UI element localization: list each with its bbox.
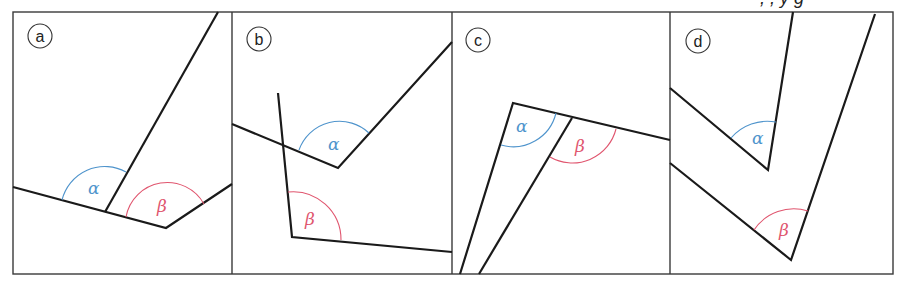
panel-c: c α β [460, 28, 670, 274]
beta-label: β [156, 196, 167, 216]
transversal-line [479, 118, 572, 274]
panel-label-b: b [255, 31, 264, 48]
alpha-label: α [516, 116, 528, 136]
panel-label-c: c [474, 32, 482, 49]
alpha-label: α [328, 134, 340, 154]
bent-line [232, 42, 452, 168]
alpha-label: α [88, 178, 100, 198]
beta-label: β [574, 136, 585, 156]
bent-line [13, 184, 232, 228]
panel-d: d α β [670, 12, 875, 260]
transversal-line [105, 12, 218, 212]
panel-a: a α β [13, 12, 232, 228]
beta-label: β [778, 220, 789, 240]
beta-label: β [304, 209, 315, 229]
panel-label-d: d [694, 33, 703, 50]
panel-b: b α β [232, 27, 452, 252]
cropped-caption-text: , , y g [760, 0, 804, 8]
angle-diagram: , , y g a α β b α β c α β [0, 0, 898, 286]
alpha-label: α [752, 128, 764, 148]
panel-label-a: a [36, 28, 45, 45]
